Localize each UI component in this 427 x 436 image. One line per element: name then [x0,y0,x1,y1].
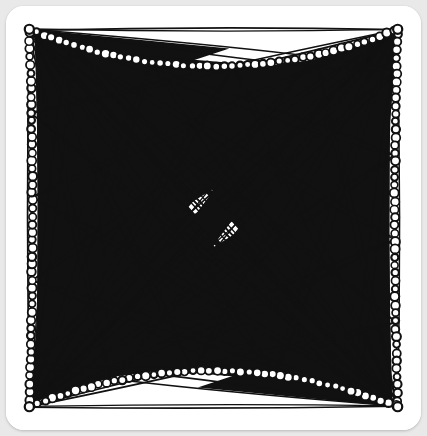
border-bead [291,56,299,64]
border-bead [26,53,33,60]
border-bead [390,188,399,197]
border-bead [392,102,400,110]
border-bead [309,377,316,384]
border-bead [391,244,400,253]
border-bead [28,253,36,261]
border-bead [203,61,212,70]
border-bead [27,77,36,86]
border-bead [205,367,213,375]
border-bead [141,58,148,65]
border-bead [189,62,196,69]
border-bead [166,369,173,376]
border-bead [347,387,356,396]
border-bead [103,379,111,387]
border-bead [29,300,36,307]
border-bead [26,372,33,379]
border-bead [26,61,35,70]
border-bead [87,382,96,391]
border-bead [150,371,157,378]
border-bead [80,385,88,393]
border-bead [306,52,314,60]
border-bead [391,156,400,165]
border-bead [392,332,401,341]
border-bead [391,230,398,237]
border-bead [27,156,36,165]
border-bead [392,94,400,102]
border-bead [27,94,35,102]
corner-bead-top-left [25,25,34,34]
border-bead [28,133,36,141]
border-bead [253,369,261,377]
border-bead [27,340,35,348]
border-bead [157,369,166,378]
border-bead [25,37,33,45]
border-bead [391,198,399,206]
artwork-card: Zentangle radiating fan tile Four fans o… [6,6,421,430]
border-bead [141,371,150,380]
border-bead [27,109,35,117]
border-bead [322,49,330,57]
border-bead [28,70,35,77]
corner-bead-bottom-right [393,402,402,411]
border-bead [392,125,400,133]
border-bead [393,341,400,348]
border-bead [27,125,35,133]
border-bead [276,371,285,380]
border-bead [301,376,308,383]
border-bead [392,118,399,125]
border-bead [156,59,163,66]
border-bead [117,53,124,60]
corner-bead-bottom-left [25,402,34,411]
border-bead [228,62,235,69]
border-bead [391,181,398,188]
border-bead [390,292,399,301]
border-bead [236,62,243,69]
border-bead [57,392,65,400]
border-bead [393,380,401,388]
border-bead [212,63,220,71]
border-bead [85,45,94,54]
border-bead [390,221,398,229]
border-bead [391,166,398,173]
border-bead [28,165,35,172]
corner-bead-top-right [393,25,402,34]
border-bead [344,42,353,51]
zentangle-artwork [6,6,421,430]
border-bead [236,368,245,377]
border-bead [134,373,141,380]
border-bead [28,221,36,229]
border-bead [29,204,37,212]
border-bead [391,141,399,149]
border-bead [391,277,399,285]
border-bead [276,57,283,64]
border-bead [94,49,101,56]
border-bead [173,368,181,376]
border-bead [392,317,399,324]
border-bead [392,364,400,372]
border-bead [393,55,400,62]
border-bead [220,62,228,70]
border-bead [63,39,70,46]
border-bead [164,60,171,67]
tile-root: Zentangle radiating fan tile Four fans o… [0,0,427,436]
border-bead [27,325,34,332]
border-bead [190,367,197,374]
border-bead [29,181,37,189]
border-bead [392,309,399,316]
border-bead [394,389,402,397]
border-bead [71,386,80,395]
border-bead [28,244,37,253]
border-bead [393,70,401,78]
border-bead [391,254,398,261]
border-bead [392,110,399,117]
border-bead [29,213,36,220]
border-bead [28,172,37,181]
border-bead [42,397,49,404]
border-bead [180,62,187,69]
border-bead [132,55,141,64]
border-bead [149,59,156,66]
border-bead [229,367,236,374]
border-bead [332,382,339,389]
border-bead [111,377,118,384]
border-bead [392,78,401,87]
